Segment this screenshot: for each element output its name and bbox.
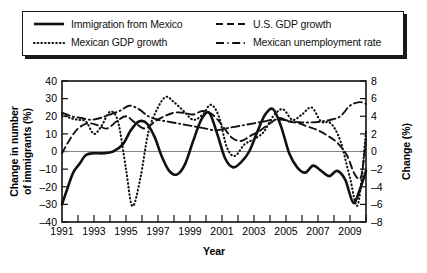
chart-figure: Immigration from Mexico U.S. GDP growth … (0, 0, 427, 273)
legend-label-us-gdp: U.S. GDP growth (253, 19, 331, 30)
y-axis-right-tick-label: –4 (371, 181, 383, 193)
x-axis-tick-label: 2003 (242, 225, 266, 237)
chart-svg: –40–30–20–10010203040 –8–6–4–202468 1991… (0, 62, 427, 273)
y-axis-right-tick-label: –8 (371, 216, 383, 228)
x-axis-tick-label: 2009 (338, 225, 362, 237)
legend-item-us-gdp: U.S. GDP growth (215, 19, 397, 30)
legend-label-mexican-gdp: Mexican GDP growth (71, 37, 167, 48)
legend-item-mexican-unemployment: Mexican unemployment rate (215, 37, 397, 48)
legend-item-mexican-gdp: Mexican GDP growth (33, 37, 215, 48)
series-line-immigration (62, 109, 366, 205)
legend-item-immigration: Immigration from Mexico (33, 19, 215, 30)
legend-label-immigration: Immigration from Mexico (71, 19, 183, 30)
legend-swatch-dash-dot-icon (215, 38, 247, 48)
y-axis-right-tick-label: 0 (371, 145, 377, 157)
y-axis-right-tick-label: 2 (371, 128, 377, 140)
y-axis-right-tick-label: 4 (371, 110, 377, 122)
chart-plot-container: –40–30–20–10010203040 –8–6–4–202468 1991… (0, 62, 427, 273)
x-axis-title: Year (203, 245, 225, 257)
y-axis-right-tick-label: –2 (371, 163, 383, 175)
y-axis-left-tick-label: –30 (39, 198, 57, 210)
y-axis-right-title: Change (%) (400, 123, 412, 180)
x-axis-tick-label: 1993 (82, 225, 106, 237)
y-axis-left-tick-label: –20 (39, 181, 57, 193)
y-axis-left-tick-label: –10 (39, 163, 57, 175)
y-axis-left-title-line1: Change in number (8, 106, 20, 197)
y-axis-left-title-line2: of immigrants (%) (21, 108, 33, 195)
y-axis-right-tick-label: 8 (371, 75, 377, 87)
y-axis-left-tick-label: 30 (45, 92, 57, 104)
y-axis-right-tick-label: –6 (371, 198, 383, 210)
legend-swatch-solid-icon (33, 19, 65, 29)
x-axis-tick-label: 2005 (274, 225, 298, 237)
y-axis-left-tick-label: 10 (45, 128, 57, 140)
y-axis-left-tick-label: 20 (45, 110, 57, 122)
y-axis-left-tick-label: 40 (45, 75, 57, 87)
y-axis-right-tick-label: 6 (371, 92, 377, 104)
y-axis-left-tick-label: 0 (51, 145, 57, 157)
x-axis-tick-label: 1995 (114, 225, 138, 237)
x-axis-ticks: 1991199319951997199920012003200520072009 (50, 215, 366, 237)
legend-swatch-dashed-icon (215, 19, 247, 29)
legend-swatch-dotted-icon (33, 38, 65, 48)
x-axis-tick-label: 2001 (210, 225, 234, 237)
x-axis-tick-label: 1991 (50, 225, 74, 237)
x-axis-tick-label: 2007 (306, 225, 330, 237)
chart-legend: Immigration from Mexico U.S. GDP growth … (22, 11, 404, 56)
legend-label-mexican-unemployment: Mexican unemployment rate (253, 37, 381, 48)
x-axis-tick-label: 1999 (178, 225, 202, 237)
x-axis-tick-label: 1997 (146, 225, 170, 237)
